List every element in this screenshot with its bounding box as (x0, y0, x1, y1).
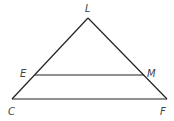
label-C: C (8, 106, 15, 117)
label-M: M (147, 68, 156, 79)
label-E: E (20, 68, 27, 79)
label-F: F (160, 106, 166, 117)
triangle-diagram: L E M C F (0, 0, 174, 121)
segment-LF (88, 18, 167, 99)
segment-LC (12, 18, 88, 99)
label-L: L (85, 3, 91, 14)
